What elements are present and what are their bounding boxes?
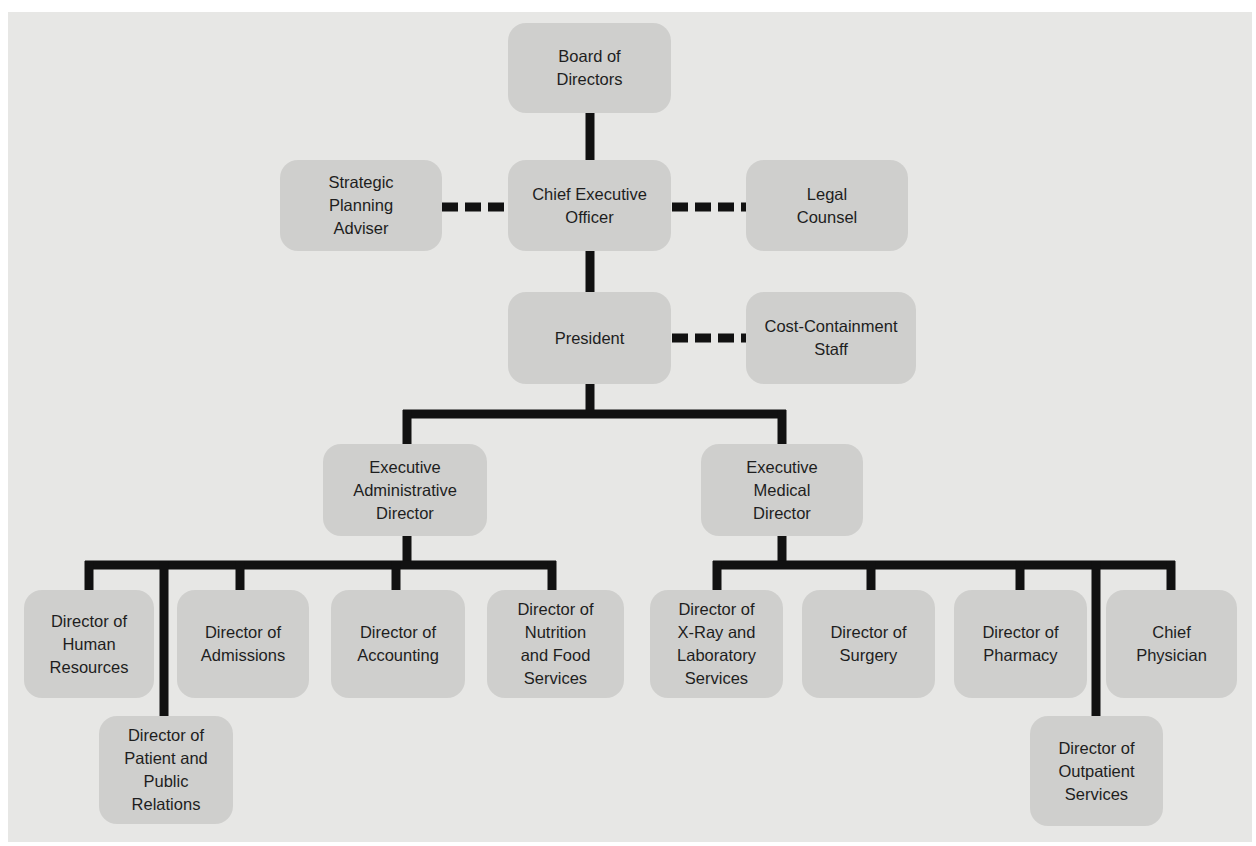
node-cost-containment-staff[interactable]: Cost-Containment Staff bbox=[746, 292, 916, 384]
node-executive-medical-director[interactable]: Executive Medical Director bbox=[701, 444, 863, 536]
node-legal-counsel[interactable]: Legal Counsel bbox=[746, 160, 908, 251]
node-director-nutrition-food-services[interactable]: Director of Nutrition and Food Services bbox=[487, 590, 624, 698]
node-director-accounting[interactable]: Director of Accounting bbox=[331, 590, 465, 698]
node-strategic-planning-adviser[interactable]: Strategic Planning Adviser bbox=[280, 160, 442, 251]
node-director-outpatient-services[interactable]: Director of Outpatient Services bbox=[1030, 716, 1163, 826]
node-director-patient-public-relations[interactable]: Director of Patient and Public Relations bbox=[99, 716, 233, 824]
node-director-xray-laboratory-services[interactable]: Director of X-Ray and Laboratory Service… bbox=[650, 590, 783, 698]
node-director-admissions[interactable]: Director of Admissions bbox=[177, 590, 309, 698]
node-chief-executive-officer[interactable]: Chief Executive Officer bbox=[508, 160, 671, 251]
node-chief-physician[interactable]: Chief Physician bbox=[1106, 590, 1237, 698]
node-director-human-resources[interactable]: Director of Human Resources bbox=[24, 590, 154, 698]
node-director-pharmacy[interactable]: Director of Pharmacy bbox=[954, 590, 1087, 698]
node-board-of-directors[interactable]: Board of Directors bbox=[508, 23, 671, 113]
node-director-surgery[interactable]: Director of Surgery bbox=[802, 590, 935, 698]
node-president[interactable]: President bbox=[508, 292, 671, 384]
node-executive-administrative-director[interactable]: Executive Administrative Director bbox=[323, 444, 487, 536]
